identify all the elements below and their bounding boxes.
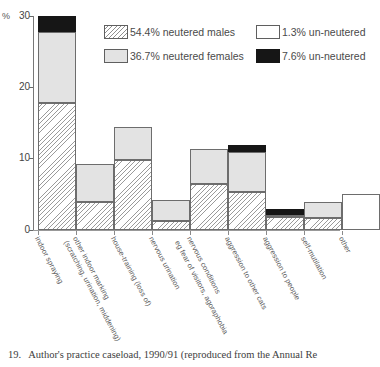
- legend-label: 7.6% un-neutered: [282, 49, 365, 63]
- bar-segment-neutered-males: [114, 160, 152, 230]
- bar-indoor-spraying: [38, 16, 76, 230]
- bar-aggression-other-cats: [228, 145, 266, 230]
- x-tick-mark: [342, 231, 343, 235]
- x-label-house-training: house-training (loss of): [109, 235, 153, 308]
- legend-swatch-white-icon: [256, 25, 280, 39]
- legend-swatch-black-icon: [256, 49, 280, 63]
- x-tick-mark: [76, 231, 77, 235]
- bar-nervous-urination: [152, 200, 190, 230]
- figure-caption-text: Author's practice caseload, 1990/91 (rep…: [28, 349, 317, 360]
- bar-segment-unneutered-white: [342, 194, 380, 230]
- figure-caption-number: 19.: [8, 349, 21, 360]
- bar-segment-neutered-males: [152, 221, 190, 230]
- bar-segment-neutered-females: [152, 200, 190, 221]
- y-tick-label-0: 0: [10, 224, 30, 235]
- x-tick-mark: [304, 231, 305, 235]
- bar-segment-unneutered-black: [228, 145, 266, 151]
- bar-aggression-people: [266, 209, 304, 230]
- legend-swatch-hatched-icon: [104, 25, 128, 39]
- bar-segment-neutered-males: [266, 217, 304, 230]
- legend-label: 36.7% neutered females: [130, 49, 244, 63]
- y-tick-label-20: 20: [10, 81, 30, 92]
- bar-segment-neutered-females: [76, 164, 114, 202]
- bar-self-mutilation: [304, 202, 342, 230]
- x-tick-mark: [190, 231, 191, 235]
- x-label-other: other: [337, 235, 353, 255]
- x-tick-mark: [38, 231, 39, 235]
- x-label-self-mutilation: self-mutilation: [299, 235, 329, 281]
- bar-segment-unneutered-black: [266, 209, 304, 215]
- x-tick-mark: [114, 231, 115, 235]
- y-tick-mark-0: [29, 230, 33, 231]
- bar-segment-neutered-females: [38, 32, 76, 103]
- bar-segment-neutered-males: [228, 192, 266, 231]
- bar-segment-neutered-females: [114, 127, 152, 161]
- x-tick-mark: [266, 231, 267, 235]
- y-tick-mark-10: [29, 158, 33, 159]
- bar-segment-neutered-females: [228, 152, 266, 192]
- x-axis-line: [33, 230, 340, 231]
- x-label-aggression-other-cats: aggression to other cats: [223, 235, 269, 311]
- x-tick-mark: [152, 231, 153, 235]
- bar-house-training: [114, 127, 152, 230]
- x-label-indoor-spraying: indoor spraying: [33, 235, 65, 285]
- y-tick-label-30: 30: [10, 10, 30, 21]
- legend-label: 1.3% un-neutered: [282, 25, 365, 39]
- y-tick-mark-20: [29, 87, 33, 88]
- bar-segment-neutered-males: [76, 202, 114, 230]
- bar-segment-neutered-females: [190, 149, 228, 185]
- bar-segment-neutered-females: [304, 202, 342, 218]
- bar-other-indoor-marking: [76, 164, 114, 230]
- bar-segment-neutered-males: [304, 218, 342, 230]
- x-tick-mark: [228, 231, 229, 235]
- x-label-other-indoor-marking-detail: (scratching, urination, middening): [62, 239, 123, 343]
- y-tick-label-10: 10: [10, 152, 30, 163]
- legend-swatch-grey-icon: [104, 49, 128, 63]
- figure-caption: 19.Author's practice caseload, 1990/91 (…: [8, 349, 370, 360]
- y-axis-unit-label: %: [2, 11, 10, 21]
- x-label-aggression-people: aggression to people: [261, 235, 302, 302]
- legend-label: 54.4% neutered males: [130, 25, 235, 39]
- chart-legend: 54.4% neutered males 1.3% un-neutered 36…: [104, 24, 366, 70]
- bar-segment-neutered-males: [38, 103, 76, 230]
- bar-segment-neutered-females: [266, 215, 304, 217]
- y-tick-mark-30: [29, 16, 33, 17]
- bar-segment-neutered-males: [190, 184, 228, 230]
- bar-segment-unneutered-black: [38, 16, 76, 32]
- bar-other: [342, 194, 380, 230]
- bar-nervous-conditions: [190, 149, 228, 230]
